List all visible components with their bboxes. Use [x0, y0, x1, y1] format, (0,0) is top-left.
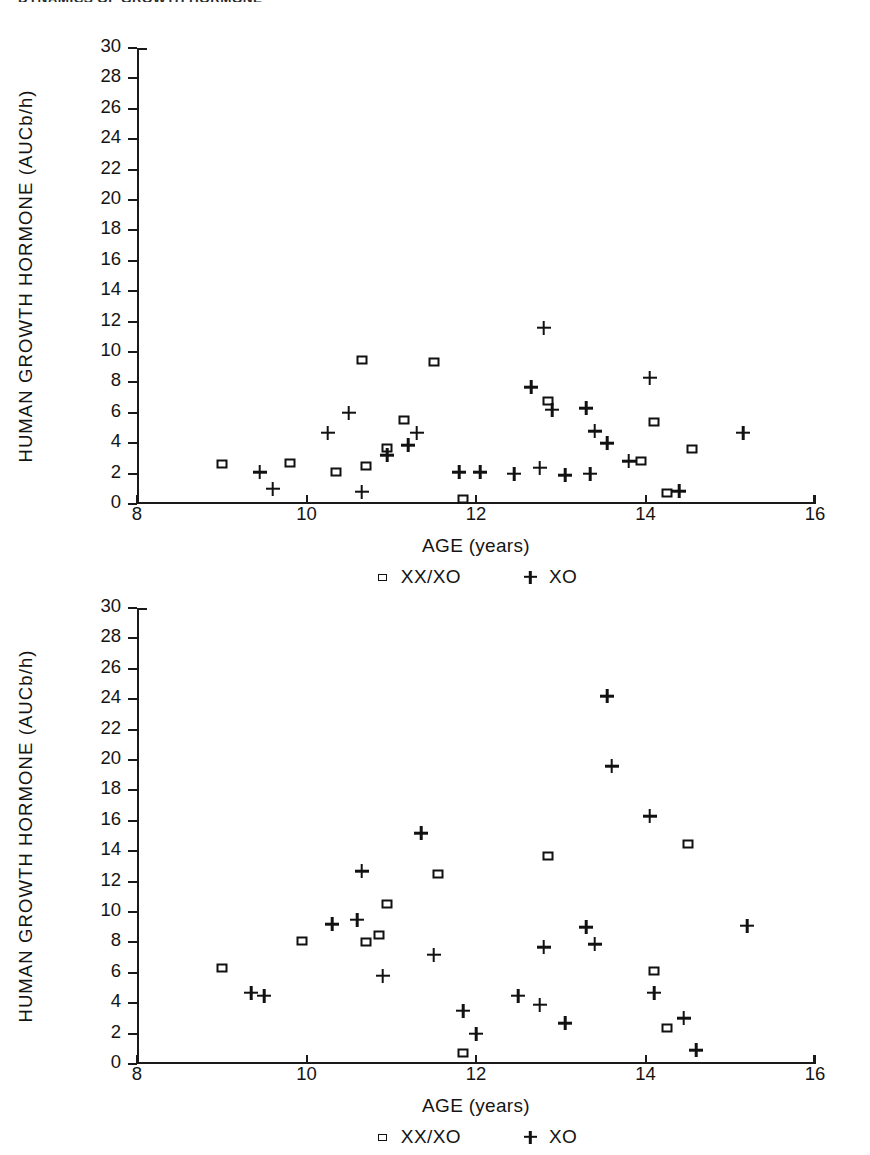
data-point-square — [331, 468, 342, 477]
y-axis-tick-label: 0 — [111, 493, 121, 512]
data-point-plus — [558, 468, 572, 482]
y-axis-tick-label: 16 — [100, 250, 121, 269]
data-point-plus — [325, 917, 339, 931]
data-point-plus — [537, 940, 551, 954]
y-axis-tick-label: 18 — [100, 220, 121, 239]
data-point-plus — [414, 826, 428, 840]
y-axis-title-text: HUMAN GROWTH HORMONE (AUCb/h) — [15, 89, 37, 462]
data-point-plus — [643, 371, 657, 385]
y-axis-title-top: HUMAN GROWTH HORMONE (AUCb/h) — [8, 48, 44, 504]
y-axis-tick: 26 — [128, 668, 137, 670]
x-axis-title-top: AGE (years) — [137, 535, 815, 557]
y-axis-tick-label: 22 — [100, 159, 121, 178]
data-point-square — [428, 357, 439, 366]
x-axis-tick-label: 14 — [635, 1065, 656, 1084]
y-axis-tick: 6 — [128, 972, 137, 974]
x-axis-tick-label: 8 — [132, 1065, 142, 1084]
y-axis-tick: 30 — [128, 607, 137, 609]
y-axis-tick: 22 — [128, 729, 137, 731]
data-point-square — [382, 900, 393, 909]
y-axis-cap-top — [137, 608, 147, 610]
data-point-plus — [533, 461, 547, 475]
y-axis-tick-label: 10 — [100, 901, 121, 920]
plot-area-bottom: 024681012141618202224262830810121416 — [137, 608, 815, 1064]
x-axis-tick: 16 — [814, 495, 816, 504]
x-axis-tick: 8 — [136, 495, 138, 504]
y-axis-tick: 22 — [128, 169, 137, 171]
y-axis-line — [137, 608, 139, 1064]
x-axis-tick: 12 — [475, 1055, 477, 1064]
y-axis-tick: 24 — [128, 138, 137, 140]
y-axis-tick-label: 30 — [100, 37, 121, 56]
y-axis-cap-top — [137, 48, 147, 50]
x-axis-tick-label: 10 — [296, 505, 317, 524]
x-axis-tick: 14 — [645, 1055, 647, 1064]
y-axis-tick: 8 — [128, 381, 137, 383]
data-point-square — [360, 938, 371, 947]
data-point-plus — [579, 401, 593, 415]
x-axis-tick-label: 16 — [805, 505, 826, 524]
y-axis-tick-label: 6 — [111, 402, 121, 421]
data-point-plus — [689, 1043, 703, 1057]
data-point-square — [648, 967, 659, 976]
data-point-plus — [321, 426, 335, 440]
data-point-plus — [600, 689, 614, 703]
data-point-plus — [672, 484, 686, 498]
data-point-plus — [376, 969, 390, 983]
data-point-square — [543, 851, 554, 860]
y-axis-tick: 30 — [128, 47, 137, 49]
y-axis-tick-label: 14 — [100, 841, 121, 860]
y-axis-tick: 8 — [128, 941, 137, 943]
y-axis-tick-label: 10 — [100, 341, 121, 360]
y-axis-tick: 12 — [128, 881, 137, 883]
y-axis-tick: 26 — [128, 108, 137, 110]
y-axis-line — [137, 48, 139, 504]
data-point-plus — [473, 465, 487, 479]
y-axis-tick: 20 — [128, 199, 137, 201]
data-point-plus — [643, 809, 657, 823]
data-point-plus — [380, 448, 394, 462]
y-axis-tick-label: 28 — [100, 68, 121, 87]
y-axis-tick: 10 — [128, 351, 137, 353]
chart-panel-top: HUMAN GROWTH HORMONE (AUCb/h) 0246810121… — [0, 18, 870, 578]
data-point-plus — [410, 426, 424, 440]
y-axis-tick-label: 6 — [111, 962, 121, 981]
square-marker-icon — [375, 1130, 390, 1145]
legend-label-xxxo: XX/XO — [401, 1126, 461, 1148]
y-axis-tick: 2 — [128, 1033, 137, 1035]
legend-bottom: XX/XO XO — [137, 1126, 815, 1148]
x-axis-tick: 10 — [306, 495, 308, 504]
y-axis-tick-label: 0 — [111, 1053, 121, 1072]
data-point-plus — [342, 406, 356, 420]
data-point-square — [360, 462, 371, 471]
y-axis-tick-label: 30 — [100, 597, 121, 616]
y-axis-tick: 18 — [128, 789, 137, 791]
data-point-plus — [427, 948, 441, 962]
figure-page: DYNAMICS OF GROWTH HORMONE HUMAN GROWTH … — [0, 0, 870, 1155]
y-axis-tick-label: 20 — [100, 749, 121, 768]
y-axis-tick-label: 24 — [100, 689, 121, 708]
y-axis-title-text: HUMAN GROWTH HORMONE (AUCb/h) — [15, 649, 37, 1022]
data-point-plus — [558, 1016, 572, 1030]
data-point-plus — [266, 482, 280, 496]
y-axis-tick: 4 — [128, 1002, 137, 1004]
y-axis-tick: 20 — [128, 759, 137, 761]
data-point-plus — [600, 436, 614, 450]
data-point-plus — [647, 986, 661, 1000]
data-point-square — [682, 839, 693, 848]
y-axis-tick-label: 8 — [111, 372, 121, 391]
data-point-square — [432, 870, 443, 879]
y-axis-tick-label: 16 — [100, 810, 121, 829]
plot-area-top: 024681012141618202224262830810121416 — [137, 48, 815, 504]
data-point-plus — [350, 913, 364, 927]
chart-panel-bottom: HUMAN GROWTH HORMONE (AUCb/h) 0246810121… — [0, 578, 870, 1138]
y-axis-tick: 16 — [128, 260, 137, 262]
clipped-page-header: DYNAMICS OF GROWTH HORMONE — [18, 0, 262, 2]
data-point-square — [356, 355, 367, 364]
x-axis-tick-label: 12 — [466, 1065, 487, 1084]
y-axis-tick: 18 — [128, 229, 137, 231]
y-axis-tick-label: 4 — [111, 433, 121, 452]
x-axis-tick: 10 — [306, 1055, 308, 1064]
data-point-square — [636, 456, 647, 465]
data-point-plus — [740, 919, 754, 933]
